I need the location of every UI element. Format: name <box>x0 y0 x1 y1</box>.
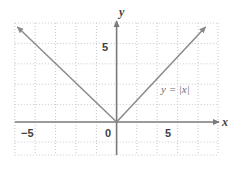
absolute-value-graph-figure: −5 5 5 0 x y y = |x| <box>0 0 235 170</box>
curve-equation-annotation: y = |x| <box>161 84 190 95</box>
origin-label: 0 <box>105 128 111 139</box>
x-axis-label: x <box>222 116 228 128</box>
y-axis-label: y <box>119 6 124 18</box>
x-axis-tick-label-positive-5: 5 <box>165 128 171 139</box>
y-axis-tick-label-positive-5: 5 <box>102 42 108 53</box>
plot-background <box>0 0 235 170</box>
x-axis-tick-label-negative-5: −5 <box>21 128 34 139</box>
plot-canvas <box>0 0 235 170</box>
